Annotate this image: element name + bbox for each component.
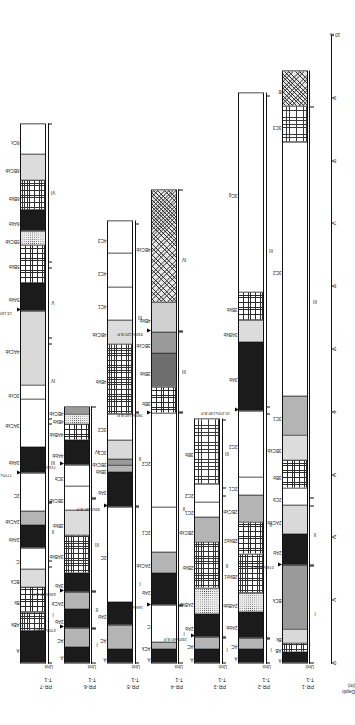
- horizon-segment[interactable]: 3C1: [283, 395, 307, 434]
- horizon-segment[interactable]: 3ABkb: [239, 319, 263, 341]
- horizon-segment[interactable]: AC: [239, 637, 263, 648]
- horizon-segment[interactable]: 4BCkb: [152, 190, 176, 301]
- horizon-segment[interactable]: 4C2: [108, 252, 132, 286]
- horizon-segment[interactable]: 2C2: [239, 410, 263, 476]
- horizon-segment[interactable]: 2BCkb: [195, 516, 219, 541]
- profile-pr-3: PR-3T-1AAC2Ab1920±60 B.P.2ABkb2Bkb2BCkb2…: [194, 0, 238, 725]
- horizon-segment[interactable]: 2ACkb: [283, 504, 307, 533]
- profile-column-pr-7[interactable]: AABkBkBCkC2Akb2ACkb2C3Akb7770±110 B.P.3A…: [20, 123, 46, 663]
- horizon-segment[interactable]: 2C: [21, 472, 45, 510]
- horizon-segment[interactable]: 3BCkb: [108, 458, 132, 464]
- profile-column-pr-4[interactable]: AACkC2Ab1660±70 B.P.2ACkb2C12C23Bb7800±1…: [151, 189, 177, 663]
- horizon-segment[interactable]: 3Ab10,100±130 B.P.: [239, 341, 263, 410]
- horizon-segment[interactable]: A: [21, 630, 45, 662]
- horizon-segment[interactable]: 2ACkb: [21, 510, 45, 523]
- horizon-segment[interactable]: 3BCkb: [152, 331, 176, 352]
- horizon-segment[interactable]: AC: [195, 636, 219, 648]
- horizon-segment[interactable]: BCk: [283, 564, 307, 628]
- horizon-segment[interactable]: 4C3: [108, 221, 132, 252]
- horizon-segment[interactable]: C: [21, 547, 45, 568]
- horizon-segment[interactable]: 3Bkb: [108, 464, 132, 472]
- profile-column-pr-1[interactable]: AABBkBCk2Ab2740±80 B.P.2ACkb2Cb3Bb3BCkb3…: [282, 70, 308, 663]
- horizon-segment[interactable]: A: [152, 648, 176, 662]
- horizon-segment[interactable]: AB: [283, 642, 307, 651]
- horizon-label: 2ACb: [51, 600, 63, 605]
- horizon-segment[interactable]: A: [65, 646, 89, 662]
- horizon-segment[interactable]: 3ABkb: [65, 534, 89, 573]
- horizon-segment[interactable]: AC: [65, 627, 89, 646]
- profile-column-pr-6[interactable]: AAC2Ab2700±80 B.P.2ACb3Ab4350±80 B.P.3AB…: [64, 406, 90, 663]
- horizon-segment[interactable]: A: [108, 648, 132, 662]
- horizon-segment[interactable]: 3Bkb: [152, 352, 176, 386]
- horizon-segment[interactable]: 2C1: [195, 501, 219, 515]
- horizon-segment[interactable]: 4ACkb: [21, 310, 45, 385]
- horizon-segment[interactable]: 2ABkb: [195, 587, 219, 613]
- horizon-segment[interactable]: 2C: [108, 506, 132, 601]
- horizon-segment[interactable]: 3Cg: [239, 93, 263, 291]
- horizon-segment[interactable]: 2Bkb1: [239, 553, 263, 592]
- horizon-segment[interactable]: A: [195, 648, 219, 662]
- horizon-segment[interactable]: 2C1: [239, 476, 263, 495]
- horizon-segment[interactable]: 2C2: [152, 412, 176, 506]
- horizon-segment[interactable]: 6BCkb: [21, 153, 45, 179]
- horizon-segment[interactable]: 2Ab1660±70 B.P.: [152, 572, 176, 605]
- horizon-segment[interactable]: 4BCkb: [65, 407, 89, 413]
- horizon-segment[interactable]: 3Cb: [65, 464, 89, 485]
- horizon-segment[interactable]: BCk: [21, 568, 45, 586]
- horizon-segment[interactable]: A: [239, 648, 263, 662]
- horizon-label: ABk: [11, 621, 20, 626]
- horizon-segment[interactable]: 2BCkb: [239, 494, 263, 520]
- horizon-segment[interactable]: 3Bb7800±140 B.P.: [152, 386, 176, 412]
- horizon-segment[interactable]: 5Bkb: [21, 244, 45, 282]
- horizon-segment[interactable]: AC: [108, 624, 132, 648]
- horizon-segment[interactable]: Bk: [283, 628, 307, 642]
- horizon-segment[interactable]: ACk: [152, 641, 176, 649]
- horizon-segment[interactable]: 2Ab1920±60 B.P.: [195, 613, 219, 635]
- horizon-segment[interactable]: 4Abb7150±100 B.P.: [65, 439, 89, 464]
- horizon-label: 3Bkb: [96, 468, 107, 473]
- horizon-segment[interactable]: 3C3: [283, 105, 307, 141]
- horizon-segment[interactable]: 2Ab2740±80 B.P.: [283, 533, 307, 564]
- horizon-segment[interactable]: 3Bkb: [239, 291, 263, 319]
- horizon-segment[interactable]: 2ACb: [65, 591, 89, 608]
- horizon-segment[interactable]: 3ACkb: [21, 398, 45, 446]
- horizon-segment[interactable]: Bk: [21, 586, 45, 610]
- horizon-segment[interactable]: 3Ckb: [21, 384, 45, 397]
- horizon-segment[interactable]: 3C2: [283, 141, 307, 395]
- horizon-segment[interactable]: 3BCkb: [283, 434, 307, 459]
- horizon-segment[interactable]: 5Akb13,140±120 B.P.: [21, 282, 45, 310]
- horizon-segment[interactable]: 3Bkb: [65, 509, 89, 534]
- horizon-segment[interactable]: 4Bkb9320±120 B.P.: [152, 301, 176, 331]
- horizon-segment[interactable]: 2C1: [152, 506, 176, 551]
- horizon-segment[interactable]: 3Ab4350±80 B.P.: [65, 572, 89, 591]
- horizon-segment[interactable]: 2Akb: [21, 524, 45, 547]
- horizon-segment[interactable]: 6Bkb: [21, 179, 45, 210]
- horizon-segment[interactable]: 2Bkb2: [239, 521, 263, 554]
- horizon-segment[interactable]: 4ABkb: [65, 423, 89, 439]
- horizon-segment[interactable]: A: [283, 651, 307, 662]
- profile-id-label: PR-4: [171, 683, 183, 690]
- horizon-segment[interactable]: 2ABbb: [239, 592, 263, 611]
- horizon-segment[interactable]: 2Abb: [239, 611, 263, 637]
- horizon-segment[interactable]: 3Bb: [195, 419, 219, 483]
- profile-column-pr-3[interactable]: AAC2Ab1920±60 B.P.2ABkb2Bkb2BCkb2C12C23B…: [194, 418, 220, 663]
- horizon-segment[interactable]: 2Ab2700±80 B.P.: [65, 608, 89, 627]
- horizon-segment[interactable]: 6Ck: [21, 124, 45, 153]
- horizon-segment[interactable]: B: [283, 71, 307, 105]
- horizon-segment[interactable]: 4Bkb: [108, 343, 132, 413]
- horizon-segment[interactable]: 2Cb: [283, 487, 307, 504]
- horizon-segment[interactable]: C: [152, 604, 176, 640]
- horizon-segment[interactable]: 3Bb: [283, 459, 307, 487]
- profile-column-pr-2[interactable]: AAC2Abb2ABbb2Bkb12Bkb22BCkb2C12C23Ab10,1…: [238, 92, 264, 663]
- horizon-segment[interactable]: 4Bkb: [65, 413, 89, 423]
- horizon-segment[interactable]: 3C1: [108, 439, 132, 458]
- horizon-segment[interactable]: 6Akb: [21, 210, 45, 231]
- horizon-segment[interactable]: 2ACkb: [152, 551, 176, 572]
- horizon-segment[interactable]: 5BCkb: [21, 230, 45, 243]
- horizon-segment[interactable]: 4C1: [108, 286, 132, 319]
- horizon-segment[interactable]: 3Ab3950±80 B.P.: [108, 471, 132, 505]
- profile-column-pr-5[interactable]: AAC2Ab2C3Ab3950±80 B.P.3Bkb3BCkb3C13C24B…: [107, 220, 133, 663]
- horizon-segment[interactable]: 2C2: [195, 483, 219, 502]
- horizon-segment[interactable]: 3BCkb: [65, 485, 89, 509]
- horizon-segment[interactable]: 2Bkb: [195, 541, 219, 588]
